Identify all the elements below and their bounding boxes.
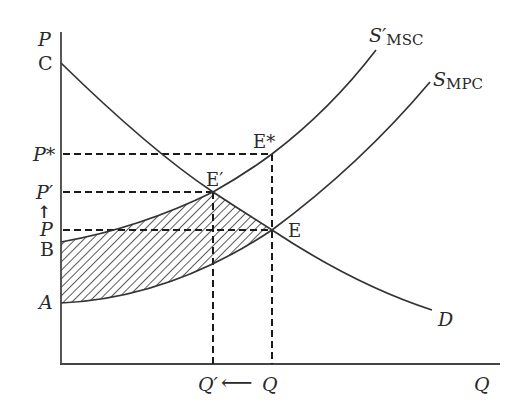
label-demand: D	[437, 308, 453, 330]
label-p-star: P*	[32, 143, 56, 165]
label-mpc-sub: MPC	[446, 75, 483, 93]
label-p: P	[39, 218, 54, 240]
label-msc: S′MSC	[369, 24, 423, 49]
label-q-prime: Q′	[198, 373, 219, 395]
externality-diagram: P Q C P* P′ ↑ P B A Q′ ⟵ Q E* E′ E D S′M…	[0, 0, 525, 413]
x-axis-label: Q	[474, 373, 490, 395]
label-mpc: SMPC	[433, 68, 483, 93]
label-b: B	[40, 238, 54, 260]
label-a: A	[37, 291, 53, 313]
label-c: C	[38, 52, 53, 74]
label-mpc-main: S	[433, 68, 446, 90]
label-msc-sub: MSC	[386, 31, 423, 49]
label-q: Q	[262, 373, 278, 395]
hatched-area	[61, 192, 272, 303]
label-p-prime: P′	[35, 181, 54, 203]
quantity-decrease-arrow-icon: ⟵	[221, 370, 253, 395]
y-axis-label: P	[37, 28, 52, 50]
label-e: E	[288, 220, 301, 241]
label-e-prime: E′	[206, 169, 223, 190]
label-msc-main: S′	[369, 24, 387, 46]
label-e-star: E*	[253, 131, 275, 152]
